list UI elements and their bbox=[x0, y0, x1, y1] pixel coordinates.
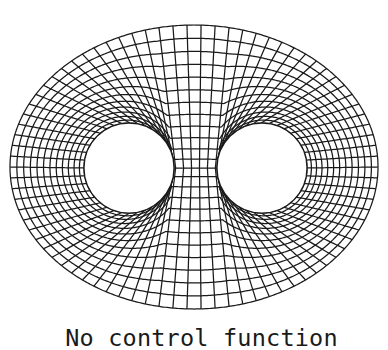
mesh-spoke-line bbox=[207, 26, 215, 168]
mesh-spoke-line bbox=[306, 176, 377, 178]
mesh-spoke-line bbox=[44, 212, 122, 248]
mesh-spoke-line bbox=[296, 197, 369, 210]
mesh-spoke-line bbox=[199, 168, 201, 309]
mesh-spoke-line bbox=[19, 197, 95, 210]
mesh-spoke-line bbox=[253, 69, 326, 124]
mesh-spoke-line bbox=[10, 167, 84, 168]
mesh-spoke-line bbox=[291, 114, 365, 133]
mesh-spoke-line bbox=[306, 156, 377, 160]
mesh-spoke-line bbox=[11, 156, 85, 160]
mesh-ring-line bbox=[24, 51, 365, 283]
outer-boundary bbox=[10, 25, 378, 309]
mesh-figure bbox=[0, 0, 388, 320]
mesh-spoke-line bbox=[173, 168, 184, 308]
mesh-spoke-line bbox=[307, 167, 378, 168]
mesh-spoke-line bbox=[187, 25, 192, 168]
mesh-spoke-line bbox=[246, 210, 317, 273]
mesh-spoke-line bbox=[15, 191, 90, 200]
mesh-grid bbox=[0, 0, 388, 320]
mesh-spoke-line bbox=[11, 176, 85, 178]
mesh-spoke-line bbox=[187, 168, 192, 309]
mesh-spoke-line bbox=[207, 168, 215, 308]
mesh-spoke-line bbox=[304, 184, 376, 189]
mesh-spoke-line bbox=[246, 61, 317, 126]
mesh-spoke-line bbox=[12, 145, 87, 152]
mesh-spoke-line bbox=[304, 145, 376, 152]
mesh-spoke-line bbox=[199, 25, 201, 168]
mesh-spoke-line bbox=[173, 26, 184, 168]
figure-caption: No control function bbox=[0, 324, 388, 350]
mesh-spoke-line bbox=[301, 191, 373, 200]
left-hole bbox=[84, 123, 174, 213]
right-hole bbox=[217, 123, 307, 213]
mesh-spoke-line bbox=[12, 184, 87, 189]
